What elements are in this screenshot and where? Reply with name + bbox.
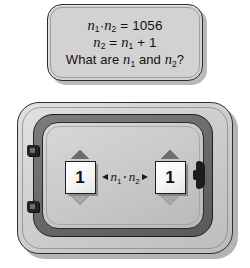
panel-latch-icon[interactable] — [196, 161, 205, 189]
product-label-operator: · — [122, 168, 127, 186]
question-conjunction: and — [139, 52, 161, 67]
question-sub2: 2 — [172, 59, 177, 69]
question-mark: ? — [177, 52, 184, 67]
equation-product: n1·n2 = 1056 — [87, 18, 162, 33]
question-line: What are n1 and n2? — [66, 52, 184, 67]
arrow-left-icon — [102, 174, 108, 180]
n1-increment-triangle-up-icon[interactable] — [71, 150, 89, 159]
question-sub1: 1 — [130, 59, 135, 69]
arrow-right-icon — [142, 174, 148, 180]
problem-statement-text: n1·n2 = 1056 n2 = n1 + 1 What are n1 and… — [47, 4, 203, 81]
equation-product-var1: n1 — [87, 17, 99, 33]
equation-successor-plus: + — [137, 35, 145, 50]
product-label-sub1: 1 — [117, 177, 121, 186]
n1-decrement-triangle-down-icon[interactable] — [71, 196, 89, 205]
equation-product-equals: = — [120, 18, 128, 33]
n1-value-box[interactable]: 1 — [65, 161, 96, 194]
question-var2: n2 — [165, 51, 177, 67]
equation-successor-sub1: 2 — [101, 41, 106, 51]
question-var1: n1 — [123, 51, 135, 67]
hinge-bottom-icon — [27, 201, 39, 212]
n2-stepper[interactable]: 1 — [152, 150, 188, 205]
diagram-canvas: n1·n2 = 1056 n2 = n1 + 1 What are n1 and… — [0, 0, 250, 268]
product-label-var1: n1 — [110, 169, 121, 185]
n2-increment-triangle-up-icon[interactable] — [161, 150, 179, 159]
hinge-top-icon — [27, 145, 39, 156]
n2-value-box[interactable]: 1 — [155, 161, 186, 194]
equation-successor-value: 1 — [149, 35, 157, 50]
equation-successor-equals: = — [109, 35, 117, 50]
equation-product-var2: n2 — [104, 17, 116, 33]
product-label: n1·n2 — [98, 168, 152, 186]
equation-successor-var2: n1 — [121, 34, 133, 50]
equation-product-value: 1056 — [132, 18, 162, 33]
n1-stepper[interactable]: 1 — [62, 150, 98, 205]
equation-product-sub2: 2 — [112, 24, 117, 34]
n2-decrement-triangle-down-icon[interactable] — [161, 196, 179, 205]
equation-product-sub1: 1 — [95, 24, 100, 34]
product-label-var2: n2 — [129, 169, 140, 185]
question-prefix: What are — [66, 52, 120, 67]
equation-successor-sub2: 1 — [129, 41, 134, 51]
equation-successor-var1: n2 — [93, 34, 105, 50]
equation-successor: n2 = n1 + 1 — [93, 35, 156, 50]
product-label-sub2: 2 — [135, 177, 139, 186]
